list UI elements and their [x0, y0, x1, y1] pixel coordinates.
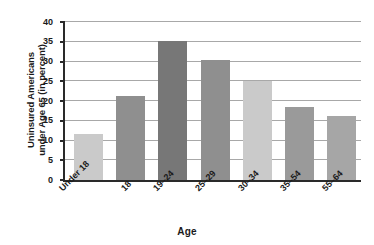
y-axis-tick-label: 25: [26, 77, 53, 86]
bar: [158, 41, 187, 180]
x-axis-tick-labels: Under 181819–2425–2930–3435–5455–64: [63, 180, 359, 226]
y-axis-tick-label: 15: [26, 116, 53, 125]
y-axis-tick-label: 40: [26, 18, 53, 27]
bar: [327, 116, 356, 180]
bars-group: [65, 22, 361, 180]
bar: [116, 96, 145, 180]
y-axis-tick-label: 30: [26, 57, 53, 66]
y-axis-tick-labels: 0510152025303540: [26, 16, 53, 184]
bar: [243, 81, 272, 180]
y-axis-tick-label: 10: [26, 136, 53, 145]
bar-chart: Uninsured Americans under Age 65 (in per…: [0, 0, 374, 245]
bar: [285, 107, 314, 180]
y-axis-tick-label: 20: [26, 97, 53, 106]
bar: [201, 60, 230, 180]
y-axis-tick-label: 5: [26, 156, 53, 165]
y-axis-tick-label: 0: [26, 176, 53, 185]
x-axis-title: Age: [0, 226, 374, 237]
y-axis-tick-label: 35: [26, 37, 53, 46]
x-axis-tick-label: 18: [119, 179, 133, 193]
plot-area: [63, 22, 361, 182]
